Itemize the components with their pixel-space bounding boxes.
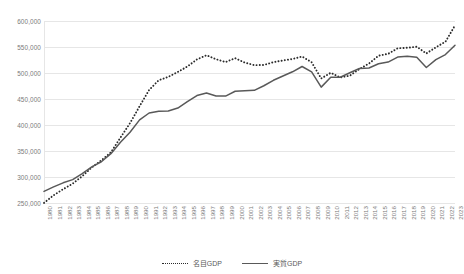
x-axis-tick-label: 1990 bbox=[142, 206, 149, 220]
x-axis: 1980198119821983198419851986198719881989… bbox=[44, 206, 455, 246]
legend-item[interactable]: 名目GDP bbox=[162, 258, 222, 268]
x-axis-tick-label: 2012 bbox=[352, 206, 359, 220]
x-axis-tick-label: 1997 bbox=[209, 206, 216, 220]
y-axis-tick-label: 400,000 bbox=[1, 122, 41, 129]
gridline bbox=[44, 125, 455, 126]
gridline bbox=[44, 203, 455, 204]
x-axis-tick-label: 1983 bbox=[75, 206, 82, 220]
x-axis-tick-label: 2018 bbox=[410, 206, 417, 220]
x-axis-tick-label: 1999 bbox=[228, 206, 235, 220]
x-axis-tick-label: 2021 bbox=[438, 206, 445, 220]
gdp-line-chart: 600,000550,000500,000450,000400,000350,0… bbox=[0, 0, 464, 274]
x-axis-tick-label: 2014 bbox=[371, 206, 378, 220]
x-axis-tick-label: 2004 bbox=[276, 206, 283, 220]
x-axis-tick-label: 1993 bbox=[171, 206, 178, 220]
y-axis-tick-label: 300,000 bbox=[1, 174, 41, 181]
legend-label: 実質GDP bbox=[273, 258, 302, 268]
x-axis-tick-label: 2022 bbox=[448, 206, 455, 220]
x-axis-tick-label: 2013 bbox=[362, 206, 369, 220]
chart-legend: 名目GDP実質GDP bbox=[0, 254, 464, 272]
x-axis-tick-label: 2016 bbox=[390, 206, 397, 220]
y-axis-tick-label: 350,000 bbox=[1, 148, 41, 155]
legend-swatch-dotted-icon bbox=[162, 263, 188, 264]
x-axis-tick-label: 2010 bbox=[333, 206, 340, 220]
x-axis-tick-label: 2003 bbox=[266, 206, 273, 220]
x-axis-tick-label: 2019 bbox=[419, 206, 426, 220]
x-axis-tick-label: 2002 bbox=[257, 206, 264, 220]
legend-label: 名目GDP bbox=[193, 258, 222, 268]
gridline bbox=[44, 177, 455, 178]
y-axis-tick-label: 600,000 bbox=[1, 18, 41, 25]
x-axis-tick-label: 2000 bbox=[238, 206, 245, 220]
x-axis-tick-label: 2006 bbox=[295, 206, 302, 220]
x-axis-tick-label: 2015 bbox=[381, 206, 388, 220]
plot-area bbox=[44, 21, 455, 203]
legend-item[interactable]: 実質GDP bbox=[242, 258, 302, 268]
y-axis-tick-label: 500,000 bbox=[1, 70, 41, 77]
x-axis-tick-label: 1994 bbox=[180, 206, 187, 220]
gridline bbox=[44, 21, 455, 22]
y-axis: 600,000550,000500,000450,000400,000350,0… bbox=[0, 0, 41, 274]
y-axis-tick-label: 450,000 bbox=[1, 96, 41, 103]
x-axis-tick-label: 1992 bbox=[161, 206, 168, 220]
gridline bbox=[44, 47, 455, 48]
x-axis-tick-label: 2017 bbox=[400, 206, 407, 220]
legend-swatch-solid-icon bbox=[242, 263, 268, 264]
x-axis-tick-label: 2008 bbox=[314, 206, 321, 220]
x-axis-tick-label: 1995 bbox=[190, 206, 197, 220]
gridline bbox=[44, 151, 455, 152]
x-axis-tick-label: 1989 bbox=[132, 206, 139, 220]
y-axis-tick-label: 250,000 bbox=[1, 200, 41, 207]
x-axis-tick-label: 1980 bbox=[46, 206, 53, 220]
x-axis-tick-label: 1984 bbox=[85, 206, 92, 220]
x-axis-tick-label: 1985 bbox=[94, 206, 101, 220]
x-axis-tick-label: 2023 bbox=[457, 206, 464, 220]
x-axis-tick-label: 2001 bbox=[247, 206, 254, 220]
x-axis-tick-label: 1987 bbox=[113, 206, 120, 220]
x-axis-tick-label: 2007 bbox=[304, 206, 311, 220]
x-axis-tick-label: 2009 bbox=[324, 206, 331, 220]
y-axis-tick-label: 550,000 bbox=[1, 44, 41, 51]
x-axis-tick-label: 2011 bbox=[343, 206, 350, 219]
x-axis-tick-label: 1982 bbox=[66, 206, 73, 220]
x-axis-tick-label: 1981 bbox=[56, 206, 63, 220]
x-axis-tick-label: 1986 bbox=[104, 206, 111, 220]
x-axis-tick-label: 1996 bbox=[199, 206, 206, 220]
x-axis-tick-label: 1988 bbox=[123, 206, 130, 220]
x-axis-tick-label: 1991 bbox=[152, 206, 159, 220]
x-axis-tick-label: 2020 bbox=[429, 206, 436, 220]
x-axis-tick-label: 2005 bbox=[285, 206, 292, 220]
gridline bbox=[44, 99, 455, 100]
gridline bbox=[44, 73, 455, 74]
x-axis-tick-label: 1998 bbox=[218, 206, 225, 220]
